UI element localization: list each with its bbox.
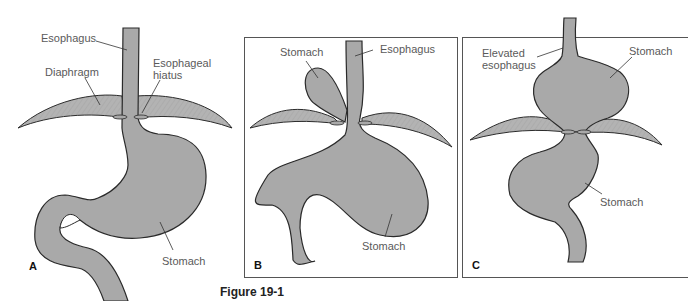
hiatal-hernia-figure: Esophagus Diaphragm Esophageal hiatus St…: [0, 0, 688, 301]
label-stomach-a: Stomach: [162, 255, 205, 267]
panel-letter-a: A: [29, 260, 37, 272]
herniated-stomach-c: [534, 18, 629, 132]
label-esophagus-b: Esophagus: [380, 43, 435, 55]
label-hiatus-line1-a: Esophageal: [153, 57, 211, 69]
panel-letter-c: C: [472, 259, 480, 271]
stomach-c: [509, 132, 599, 262]
label-stomach-bottom-c: Stomach: [600, 196, 643, 208]
stomach-b: [255, 41, 428, 264]
anatomy-illustration: [0, 0, 688, 301]
label-stomach-top-c: Stomach: [629, 45, 672, 57]
label-elevated-line1-c: Elevated: [482, 47, 525, 59]
label-stomach-bottom-b: Stomach: [362, 240, 405, 252]
figure-caption: Figure 19-1: [220, 285, 284, 299]
panel-letter-b: B: [254, 259, 262, 271]
label-elevated-line2-c: esophagus: [482, 59, 536, 71]
panel-b-drawing: [250, 41, 452, 264]
label-hiatus-line2-a: hiatus: [153, 69, 182, 81]
label-esophagus-a: Esophagus: [41, 32, 96, 44]
label-stomach-top-b: Stomach: [280, 46, 323, 58]
label-diaphragm-a: Diaphragm: [45, 66, 99, 78]
